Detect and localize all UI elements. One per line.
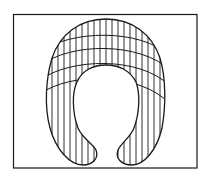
horseshoe-diagram bbox=[0, 0, 207, 179]
cross-bands bbox=[40, 35, 170, 104]
vertical-hatching bbox=[52, 10, 160, 170]
frame bbox=[14, 15, 198, 169]
